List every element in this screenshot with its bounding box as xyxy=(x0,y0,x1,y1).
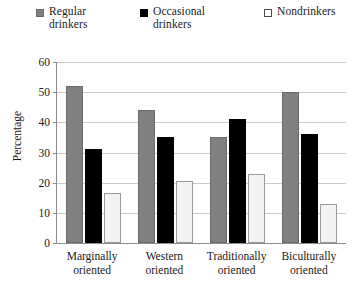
x-axis-labels: Marginally orientedWestern orientedTradi… xyxy=(56,246,345,286)
y-tick-label-40: 40 xyxy=(39,116,51,128)
gridline-0 xyxy=(57,243,346,244)
bar-regular-1 xyxy=(138,110,155,243)
x-axis-label-0: Marginally oriented xyxy=(56,250,128,277)
y-tick-label-50: 50 xyxy=(39,86,51,98)
y-tick-label-30: 30 xyxy=(39,147,51,159)
bar-nondrinker-2 xyxy=(248,174,265,243)
bar-regular-2 xyxy=(210,137,227,243)
plot-area: 0102030405060 xyxy=(56,62,346,244)
bar-nondrinker-0 xyxy=(104,193,121,243)
x-axis-label-1: Western oriented xyxy=(128,250,200,277)
y-tick-mark-0 xyxy=(53,243,57,244)
x-axis-label-2: Traditionally oriented xyxy=(201,250,273,277)
bar-chart: Regular drinkers Occasional drinkers Non… xyxy=(0,0,361,289)
bars-layer xyxy=(57,62,346,243)
y-tick-label-10: 10 xyxy=(39,207,51,219)
bar-occasional-2 xyxy=(229,119,246,243)
bar-occasional-0 xyxy=(85,149,102,243)
bar-regular-3 xyxy=(282,92,299,243)
y-axis-title: Percentage xyxy=(11,96,23,176)
plot-wrapper: Percentage 0102030405060 Marginally orie… xyxy=(0,0,361,289)
bar-nondrinker-1 xyxy=(176,181,193,243)
y-tick-label-20: 20 xyxy=(39,177,51,189)
bar-nondrinker-3 xyxy=(320,204,337,243)
bar-occasional-1 xyxy=(157,137,174,243)
bar-regular-0 xyxy=(66,86,83,243)
y-tick-label-60: 60 xyxy=(39,56,51,68)
x-axis-label-3: Biculturally oriented xyxy=(273,250,345,277)
bar-occasional-3 xyxy=(301,134,318,243)
y-tick-label-0: 0 xyxy=(44,237,50,249)
